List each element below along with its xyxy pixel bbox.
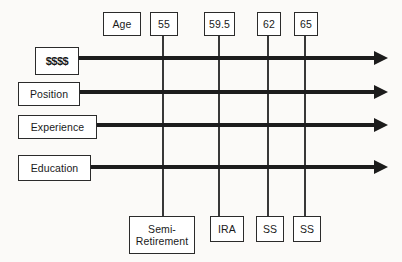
axis-header-age: Age <box>103 12 141 36</box>
event-semi-retirement: Semi- Retirement <box>129 216 195 254</box>
timeline-diagram: Age 55 59.5 62 65 $$$$ Position Experien… <box>0 0 402 262</box>
age-marker-62: 62 <box>257 12 281 36</box>
age-marker-55: 55 <box>150 12 178 36</box>
arrowhead-experience <box>374 118 388 132</box>
arrowhead-position <box>374 85 388 99</box>
row-label-money: $$$$ <box>35 47 79 75</box>
event-ss-62: SS <box>256 216 284 242</box>
track-position <box>80 90 374 94</box>
event-ira: IRA <box>210 216 244 242</box>
arrowhead-education <box>374 160 388 174</box>
age-marker-65: 65 <box>294 12 318 36</box>
track-education <box>91 165 374 169</box>
track-money <box>79 56 374 60</box>
row-label-experience: Experience <box>18 115 97 139</box>
age-marker-59-5: 59.5 <box>204 12 235 36</box>
row-label-position: Position <box>18 82 80 106</box>
arrowhead-money <box>374 51 388 65</box>
row-label-education: Education <box>18 155 91 181</box>
track-experience <box>97 123 374 127</box>
event-ss-65: SS <box>293 216 321 242</box>
